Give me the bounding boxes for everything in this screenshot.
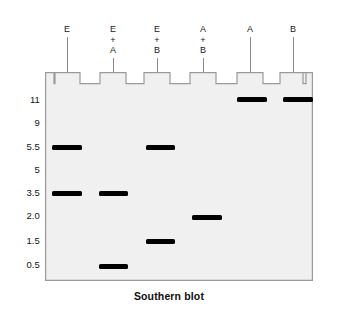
size-marker-label-3-5: 3.5 [26, 188, 40, 198]
lane-label-3: E + B [154, 24, 160, 56]
band-lane2-0-5kb [99, 264, 128, 269]
lane-label-2: E + A [110, 24, 116, 56]
band-lane6-11kb [283, 97, 313, 102]
size-marker-label-2-0: 2.0 [26, 211, 40, 221]
band-lane3-1-5kb [146, 239, 175, 244]
size-marker-axis: 1195.553.52.01.50.5 [8, 0, 40, 315]
gel-outline-path [46, 73, 313, 281]
size-marker-label-5: 5 [35, 165, 40, 175]
gel-outline-svg [45, 72, 313, 281]
band-lane1-5-5kb [52, 145, 82, 150]
lane-label-5: A [247, 24, 253, 35]
size-marker-label-1-5: 1.5 [26, 236, 40, 246]
band-lane3-5-5kb [146, 145, 175, 150]
gel-slab [45, 72, 313, 281]
lane-label-4: A + B [200, 24, 206, 56]
southern-blot-figure: EE + AE + BA + BAB 1195.553.52.01.50.5 S… [0, 0, 338, 315]
lane-label-1: E [64, 24, 70, 35]
band-lane5-11kb [237, 97, 267, 102]
size-marker-label-0-5: 0.5 [26, 260, 40, 270]
size-marker-label-11: 11 [30, 95, 40, 105]
band-lane2-3-5kb [99, 191, 128, 196]
lane-label-6: B [290, 24, 296, 35]
band-lane1-3-5kb [52, 191, 82, 196]
size-marker-label-5-5: 5.5 [26, 142, 40, 152]
figure-caption: Southern blot [0, 290, 338, 302]
band-lane4-2-0kb [192, 215, 222, 220]
size-marker-label-9: 9 [35, 118, 40, 128]
